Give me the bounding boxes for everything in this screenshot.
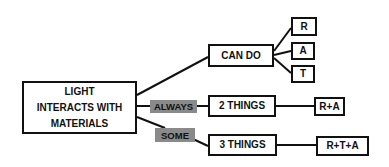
- root-line-2: INTERACTS WITH: [37, 100, 123, 116]
- node-r: R: [291, 17, 317, 36]
- root-node: LIGHT INTERACTS WITH MATERIALS: [22, 81, 137, 134]
- root-line-3: MATERIALS: [51, 116, 109, 132]
- root-line-1: LIGHT: [65, 84, 95, 100]
- node-r-plus-a: R+A: [314, 97, 345, 116]
- node-a: A: [291, 42, 315, 60]
- node-3-things: 3 THINGS: [208, 134, 277, 156]
- edge-label-always: ALWAYS: [150, 100, 197, 113]
- edge-label-some: SOME: [155, 128, 195, 142]
- node-t: T: [291, 65, 315, 83]
- node-can-do: CAN DO: [208, 44, 274, 67]
- node-r-plus-t-plus-a: R+T+A: [316, 136, 369, 156]
- node-2-things: 2 THINGS: [208, 95, 276, 117]
